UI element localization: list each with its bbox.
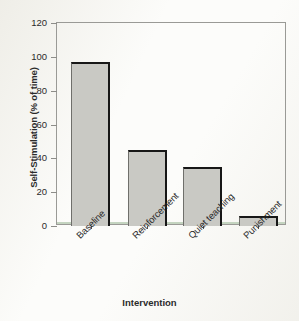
y-tick: 120 <box>51 23 57 24</box>
y-tick-label: 100 <box>31 51 47 62</box>
y-tick: 60 <box>51 125 57 126</box>
y-tick-label: 120 <box>31 17 47 28</box>
y-tick-label: 60 <box>36 119 47 130</box>
y-tick-label: 0 <box>42 220 47 231</box>
y-tick: 80 <box>51 91 57 92</box>
y-tick-label: 80 <box>36 85 47 96</box>
y-tick: 0 <box>51 226 57 227</box>
x-axis-title: Intervention <box>0 297 299 308</box>
y-tick-label: 20 <box>36 186 47 197</box>
y-tick: 40 <box>51 158 57 159</box>
bar <box>71 62 110 226</box>
y-tick-label: 40 <box>36 152 47 163</box>
y-tick: 20 <box>51 192 57 193</box>
bar-chart-figure: Self-Stimulation (% of time) 02040608010… <box>0 0 299 321</box>
y-tick: 100 <box>51 57 57 58</box>
